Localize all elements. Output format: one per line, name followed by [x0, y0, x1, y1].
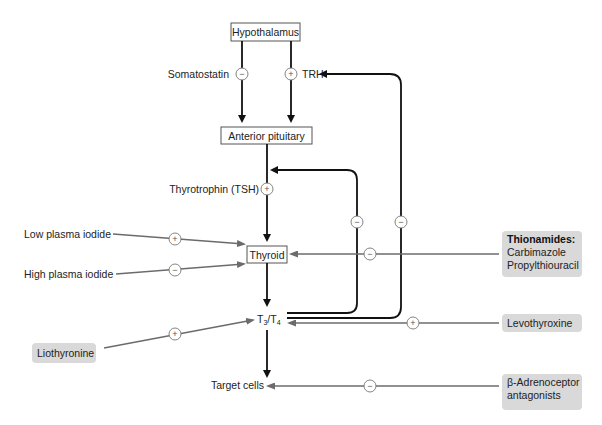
minus-sign-feedback-hypothalamus: −: [395, 216, 407, 228]
beta-blocker-drug-box: β-Adrenoceptor antagonists: [502, 374, 582, 410]
feedback-pituitary-arrow: [272, 170, 357, 313]
anterior-pituitary-label: Anterior pituitary: [228, 130, 305, 142]
plus-sign-tsh: +: [261, 183, 273, 195]
svg-text:β-Adrenoceptor: β-Adrenoceptor: [507, 376, 580, 388]
svg-text:antagonists: antagonists: [507, 389, 561, 401]
minus-sign-somatostatin: −: [236, 68, 248, 80]
svg-text:+: +: [288, 69, 293, 79]
svg-text:−: −: [367, 381, 372, 391]
liothyronine-drug-box: Liothyronine: [32, 343, 96, 363]
svg-text:Levothyroxine: Levothyroxine: [507, 317, 573, 329]
minus-sign-feedback-pituitary: −: [351, 216, 363, 228]
svg-text:+: +: [172, 234, 177, 244]
svg-text:+: +: [264, 184, 269, 194]
hypothalamus-node: Hypothalamus: [231, 23, 300, 41]
somatostatin-label: Somatostatin: [168, 68, 229, 80]
trh-label: TRH: [302, 68, 324, 80]
thionamides-drug-box: Thionamides: Carbimazole Propylthiouraci…: [502, 231, 582, 277]
anterior-pituitary-node: Anterior pituitary: [221, 127, 312, 144]
high-iodide-label: High plasma iodide: [24, 268, 113, 280]
svg-text:−: −: [172, 265, 177, 275]
svg-text:+: +: [172, 329, 177, 339]
svg-text:Propylthiouracil: Propylthiouracil: [507, 259, 579, 271]
plus-sign-liothyronine: +: [169, 328, 181, 340]
svg-text:−: −: [398, 217, 403, 227]
svg-text:Carbimazole: Carbimazole: [507, 246, 566, 258]
thyroid-node: Thyroid: [247, 246, 287, 263]
target-cells-label: Target cells: [211, 379, 264, 391]
svg-text:+: +: [410, 318, 415, 328]
plus-sign-trh: +: [285, 68, 297, 80]
svg-text:Thionamides:: Thionamides:: [507, 233, 575, 245]
levothyroxine-drug-box: Levothyroxine: [502, 314, 582, 332]
t3t4-label: T3/T4: [257, 313, 281, 326]
feedback-hypothalamus-arrow: [287, 74, 401, 318]
low-iodide-label: Low plasma iodide: [24, 228, 111, 240]
hypothalamus-label: Hypothalamus: [232, 26, 299, 38]
svg-text:−: −: [354, 217, 359, 227]
minus-sign-beta-blocker: −: [364, 380, 376, 392]
plus-sign-low-iodide: +: [169, 233, 181, 245]
minus-sign-thionamides: −: [364, 248, 376, 260]
svg-text:−: −: [367, 249, 372, 259]
svg-text:−: −: [239, 69, 244, 79]
tsh-label: Thyrotrophin (TSH): [169, 183, 259, 195]
plus-sign-levothyroxine: +: [407, 317, 419, 329]
minus-sign-high-iodide: −: [169, 264, 181, 276]
thyroid-label: Thyroid: [249, 249, 284, 261]
svg-text:Liothyronine: Liothyronine: [37, 347, 94, 359]
thyroid-regulation-diagram: Hypothalamus Somatostatin − + TRH Anteri…: [0, 0, 602, 425]
